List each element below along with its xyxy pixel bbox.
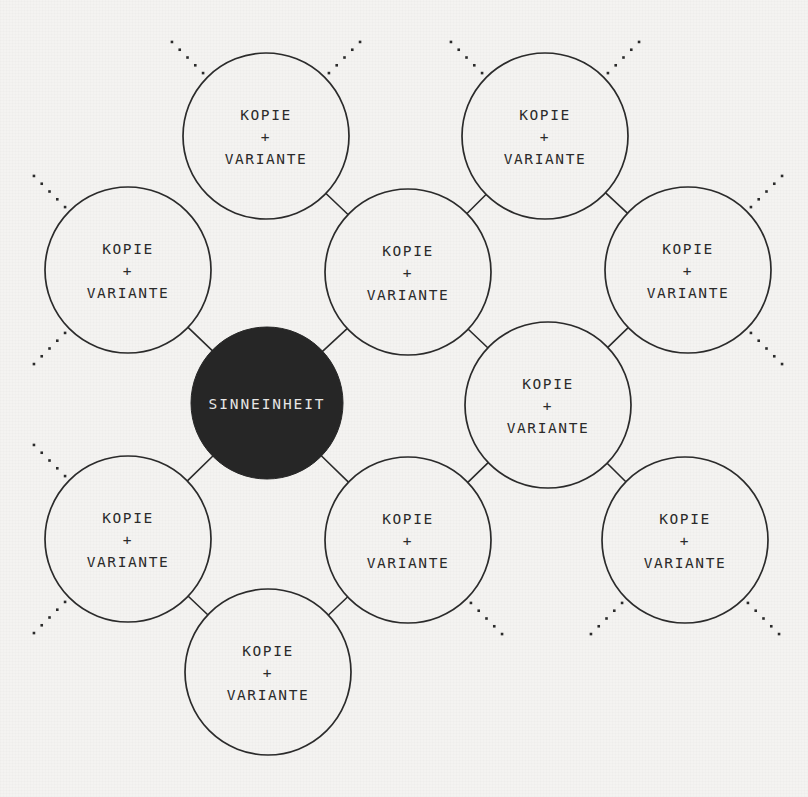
- stub-dot: [33, 363, 36, 366]
- node-node-6[interactable]: KOPIE+VARIANTE: [465, 322, 631, 488]
- node-label-line2: +: [123, 532, 133, 548]
- stub-dot: [477, 609, 480, 612]
- stub-dot: [781, 175, 784, 178]
- stub-dot: [750, 206, 753, 209]
- node-label-line3: VARIANTE: [504, 151, 587, 167]
- stub-dot: [64, 601, 67, 604]
- stub-dot: [781, 363, 784, 366]
- node-node-9[interactable]: KOPIE+VARIANTE: [602, 457, 768, 623]
- node-node-8[interactable]: KOPIE+VARIANTE: [325, 457, 491, 623]
- stub-dot: [40, 182, 43, 185]
- node-label-line3: VARIANTE: [367, 555, 450, 571]
- dotted-stub: [750, 175, 784, 209]
- stub-dot: [335, 64, 338, 67]
- stub-dot: [765, 347, 768, 350]
- stub-dot: [48, 459, 51, 462]
- node-label-line3: VARIANTE: [87, 554, 170, 570]
- node-node-1[interactable]: KOPIE+VARIANTE: [183, 53, 349, 219]
- stub-dot: [56, 467, 59, 470]
- node-label-line3: VARIANTE: [644, 555, 727, 571]
- stub-dot: [343, 56, 346, 59]
- stub-dot: [750, 332, 753, 335]
- stub-dot: [328, 72, 331, 75]
- dotted-stub: [747, 602, 781, 636]
- node-label-line1: KOPIE: [659, 511, 711, 527]
- dotted-stub: [607, 41, 641, 75]
- connector-line: [606, 463, 626, 483]
- connector-line: [322, 328, 348, 352]
- stub-dot: [48, 616, 51, 619]
- connector-line: [466, 194, 487, 214]
- node-node-10[interactable]: KOPIE+VARIANTE: [185, 589, 351, 755]
- connector-line: [325, 193, 349, 216]
- node-label-line2: +: [680, 533, 690, 549]
- stub-dot: [473, 64, 476, 67]
- stub-dot: [757, 198, 760, 201]
- stub-dot: [614, 64, 617, 67]
- node-label-line3: VARIANTE: [225, 151, 308, 167]
- stub-dot: [202, 72, 205, 75]
- stub-dot: [56, 198, 59, 201]
- connector-line: [605, 192, 628, 214]
- node-node-5[interactable]: KOPIE+VARIANTE: [605, 187, 771, 353]
- stub-dot: [770, 625, 773, 628]
- stub-dot: [351, 48, 354, 51]
- stub-dot: [622, 56, 625, 59]
- dotted-stub: [590, 602, 624, 636]
- connector-line: [607, 327, 629, 348]
- node-label-line1: KOPIE: [382, 243, 434, 259]
- stub-dot: [56, 339, 59, 342]
- stub-dot: [613, 609, 616, 612]
- node-label-line2: +: [403, 265, 413, 281]
- stub-dot: [48, 347, 51, 350]
- node-label-line1: KOPIE: [522, 376, 574, 392]
- stub-dot: [762, 617, 765, 620]
- node-layer: KOPIE+VARIANTEKOPIE+VARIANTEKOPIE+VARIAN…: [45, 53, 771, 755]
- stub-dot: [597, 625, 600, 628]
- node-label-line2: +: [403, 533, 413, 549]
- dotted-stub: [33, 601, 67, 635]
- stub-dot: [481, 72, 484, 75]
- dotted-stub: [450, 41, 484, 75]
- node-label-line1: KOPIE: [242, 643, 294, 659]
- connector-line: [187, 327, 213, 351]
- node-label-line3: VARIANTE: [87, 285, 170, 301]
- connector-line: [328, 596, 349, 616]
- stub-dot: [485, 617, 488, 620]
- connector-line: [467, 328, 488, 348]
- node-node-3[interactable]: KOPIE+VARIANTE: [45, 187, 211, 353]
- stub-dot: [470, 602, 473, 605]
- stub-dot: [33, 632, 36, 635]
- connector-line: [467, 462, 489, 483]
- node-label-line2: +: [543, 398, 553, 414]
- node-label-line3: VARIANTE: [507, 420, 590, 436]
- core-node[interactable]: SINNEINHEIT: [191, 327, 343, 479]
- connector-line: [187, 595, 208, 615]
- node-node-4[interactable]: KOPIE+VARIANTE: [325, 189, 491, 355]
- stub-dot: [64, 332, 67, 335]
- stub-dot: [450, 41, 453, 44]
- dotted-stub: [171, 41, 205, 75]
- stub-dot: [186, 56, 189, 59]
- connector-line: [321, 455, 349, 483]
- stub-dot: [457, 48, 460, 51]
- stub-dot: [773, 182, 776, 185]
- stub-dot: [638, 41, 641, 44]
- stub-dot: [33, 444, 36, 447]
- node-label-line1: KOPIE: [662, 241, 714, 257]
- node-label-line2: +: [261, 129, 271, 145]
- dotted-stub: [750, 332, 784, 366]
- node-node-7[interactable]: KOPIE+VARIANTE: [45, 456, 211, 622]
- stub-dot: [630, 48, 633, 51]
- stub-dot: [493, 625, 496, 628]
- stub-dot: [754, 609, 757, 612]
- stub-dot: [56, 608, 59, 611]
- core-label: SINNEINHEIT: [209, 396, 326, 412]
- stub-dot: [171, 41, 174, 44]
- stub-dot: [465, 56, 468, 59]
- node-label-line1: KOPIE: [382, 511, 434, 527]
- dotted-stub: [33, 444, 67, 478]
- node-node-2[interactable]: KOPIE+VARIANTE: [462, 53, 628, 219]
- stub-dot: [64, 206, 67, 209]
- stub-dot: [194, 64, 197, 67]
